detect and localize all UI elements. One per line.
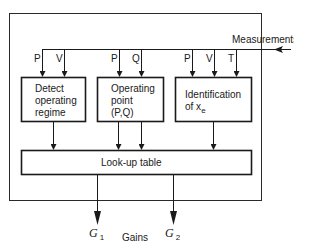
arrow-g1-head-icon <box>94 211 101 225</box>
ident-line-2: of xe <box>185 101 241 117</box>
oppoint-line-2: point <box>111 95 155 107</box>
ident-input-v: V <box>206 53 213 64</box>
g2-subscript: 2 <box>176 233 180 242</box>
detect-regime-label: Detect operating regime <box>35 83 77 119</box>
operating-point-label: Operating point (P,Q) <box>111 83 155 119</box>
arrow-g2-head-icon <box>170 211 177 225</box>
detect-line-2: operating <box>35 95 77 107</box>
oppoint-line-1: Operating <box>111 83 155 95</box>
oppoint-line-3: (P,Q) <box>111 107 155 119</box>
detect-input-v: V <box>56 53 63 64</box>
g2-label: G2 <box>165 228 180 243</box>
lookup-table-label: Look-up table <box>101 157 162 169</box>
g2-symbol: G <box>165 226 174 240</box>
gains-label: Gains <box>122 232 148 243</box>
measurements-label: Measurements <box>232 34 294 45</box>
oppoint-input-p: P <box>111 53 118 64</box>
ident-line-1: Identification <box>185 89 241 101</box>
ident-line-2-text: of x <box>185 101 201 112</box>
oppoint-input-q: Q <box>132 53 140 64</box>
detect-input-p: P <box>34 53 41 64</box>
g1-label: G1 <box>89 228 104 243</box>
g1-symbol: G <box>89 226 98 240</box>
identification-label: Identification of xe <box>185 89 241 117</box>
ident-subscript: e <box>201 106 205 115</box>
detect-line-3: regime <box>35 107 77 119</box>
detect-line-1: Detect <box>35 83 77 95</box>
ident-input-p: P <box>184 53 191 64</box>
g1-subscript: 1 <box>100 233 104 242</box>
ident-input-t: T <box>228 53 234 64</box>
